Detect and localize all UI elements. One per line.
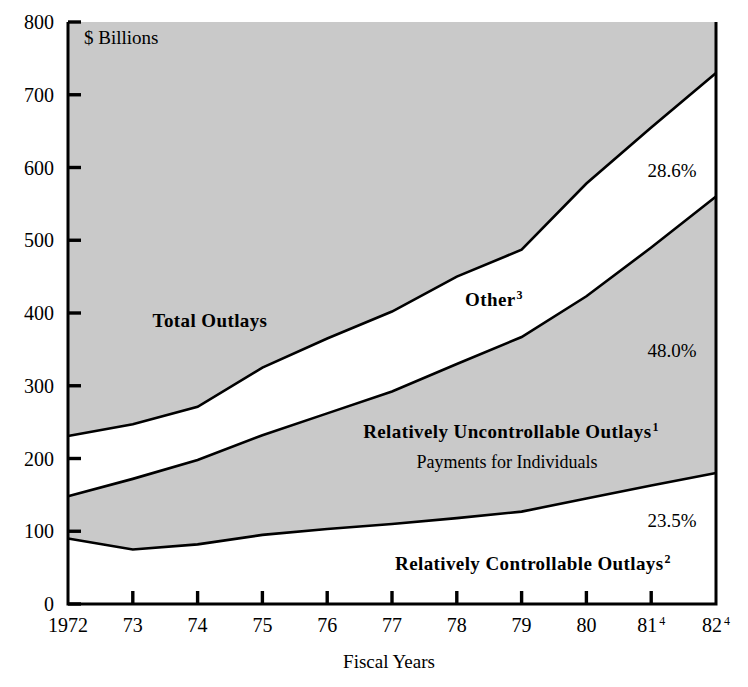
band-label-payments-for-individuals: Payments for Individuals — [417, 452, 598, 472]
y-tick-label-200: 200 — [24, 448, 54, 470]
stacked-area-chart: 0100200300400500600700800 19727374757677… — [0, 0, 748, 687]
y-tick-label-800: 800 — [24, 11, 54, 33]
y-tick-label-0: 0 — [44, 593, 54, 615]
band-label-other: Other3 — [465, 288, 523, 310]
y-tick-label-300: 300 — [24, 375, 54, 397]
percent-label-other-share: 28.6% — [647, 160, 696, 181]
x-tick-label-77: 77 — [382, 614, 402, 636]
x-tick-label-80: 80 — [576, 614, 596, 636]
y-axis-tick-labels: 0100200300400500600700800 — [24, 11, 54, 615]
x-axis-tick-labels: 19727374757677787980814824 — [48, 614, 730, 636]
percent-label-uncontrollable-share: 48.0% — [647, 340, 696, 361]
chart-page: 0100200300400500600700800 19727374757677… — [0, 0, 748, 687]
x-tick-label-75: 75 — [252, 614, 272, 636]
x-tick-label-81: 814 — [637, 614, 665, 636]
units-note: $ Billions — [84, 27, 158, 48]
x-axis-title: Fiscal Years — [343, 651, 435, 672]
y-tick-label-100: 100 — [24, 520, 54, 542]
x-tick-label-74: 74 — [188, 614, 208, 636]
band-label-total-outlays: Total Outlays — [153, 310, 268, 331]
band-label-relatively-controllable-outlays: Relatively Controllable Outlays2 — [395, 552, 671, 574]
x-tick-label-73: 73 — [123, 614, 143, 636]
y-tick-label-400: 400 — [24, 302, 54, 324]
y-tick-label-500: 500 — [24, 229, 54, 251]
percent-label-controllable-share: 23.5% — [647, 510, 696, 531]
x-tick-label-78: 78 — [447, 614, 467, 636]
x-tick-label-82: 824 — [702, 614, 730, 636]
band-label-relatively-uncontrollable-outlays: Relatively Uncontrollable Outlays1 — [363, 420, 659, 442]
y-tick-label-600: 600 — [24, 157, 54, 179]
y-tick-label-700: 700 — [24, 84, 54, 106]
x-tick-label-79: 79 — [512, 614, 532, 636]
x-tick-label-1972: 1972 — [48, 614, 88, 636]
x-tick-label-76: 76 — [317, 614, 337, 636]
